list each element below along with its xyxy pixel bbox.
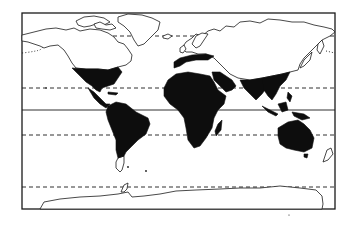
shaded-tasmania [304, 154, 308, 158]
world-map-figure [0, 0, 355, 225]
